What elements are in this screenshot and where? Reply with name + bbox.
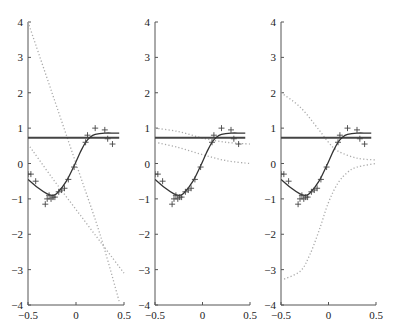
data-point-marker: [33, 178, 39, 184]
y-tick-label: −2: [138, 228, 150, 240]
data-point-marker: [102, 127, 108, 133]
x-tick-label: 0.5: [369, 309, 383, 321]
dotted-curve: [281, 93, 376, 160]
y-tick-label: 1: [145, 122, 151, 134]
y-tick-label: 3: [18, 51, 24, 63]
data-point-marker: [228, 127, 234, 133]
y-tick-label: −3: [138, 264, 150, 276]
y-tick-label: −1: [11, 193, 23, 205]
x-tick-label: 0.5: [243, 309, 257, 321]
y-tick-label: 4: [271, 16, 277, 28]
y-tick-label: −3: [264, 264, 276, 276]
data-point-marker: [236, 141, 242, 147]
y-tick-label: −1: [138, 193, 150, 205]
x-tick-label: 0: [73, 309, 79, 321]
data-point-marker: [155, 171, 161, 177]
panel-3: 43210−1−2−3−4−0.500.5: [264, 16, 383, 321]
data-point-marker: [354, 127, 360, 133]
y-tick-label: 0: [271, 158, 277, 170]
y-tick-label: 2: [271, 87, 277, 99]
chart-figure: 43210−1−2−3−4−0.500.543210−1−2−3−4−0.500…: [0, 0, 393, 331]
y-tick-label: 3: [145, 51, 151, 63]
data-point-marker: [160, 178, 166, 184]
y-tick-label: 1: [18, 122, 24, 134]
panel-1: 43210−1−2−3−4−0.500.5: [11, 16, 131, 321]
y-tick-label: 0: [145, 158, 151, 170]
axes: [155, 22, 250, 305]
x-tick-label: −0.5: [145, 309, 165, 321]
x-tick-label: 0.5: [117, 309, 131, 321]
data-point-marker: [362, 141, 368, 147]
x-tick-label: 0: [200, 309, 206, 321]
y-tick-label: 2: [145, 87, 151, 99]
x-tick-label: 0: [326, 309, 332, 321]
data-point-marker: [169, 201, 175, 207]
data-point-marker: [92, 125, 98, 131]
y-tick-label: −2: [11, 228, 23, 240]
data-point-marker: [109, 141, 115, 147]
y-tick-label: −3: [11, 264, 23, 276]
data-point-marker: [345, 125, 351, 131]
y-tick-label: 1: [271, 122, 277, 134]
y-tick-label: 4: [145, 16, 151, 28]
data-point-marker: [286, 178, 292, 184]
data-point-marker: [281, 171, 287, 177]
data-point-marker: [105, 136, 111, 142]
y-tick-label: 0: [18, 158, 24, 170]
x-tick-label: −0.5: [271, 309, 291, 321]
data-point-marker: [219, 125, 225, 131]
axes: [281, 22, 376, 305]
panel-2: 43210−1−2−3−4−0.500.5: [138, 16, 257, 321]
x-tick-label: −0.5: [18, 309, 38, 321]
y-tick-label: −2: [264, 228, 276, 240]
data-point-marker: [42, 201, 48, 207]
dotted-curve: [28, 22, 119, 301]
dotted-curve: [28, 144, 124, 273]
data-point-marker: [231, 136, 237, 142]
y-tick-label: 2: [18, 87, 24, 99]
y-tick-label: −1: [264, 193, 276, 205]
y-tick-label: 4: [18, 16, 24, 28]
data-point-marker: [357, 136, 363, 142]
dotted-curve: [281, 164, 376, 281]
data-point-marker: [295, 201, 301, 207]
dotted-curve: [155, 128, 250, 144]
y-tick-label: 3: [271, 51, 277, 63]
fit-curve: [281, 133, 371, 195]
data-point-marker: [28, 171, 34, 177]
